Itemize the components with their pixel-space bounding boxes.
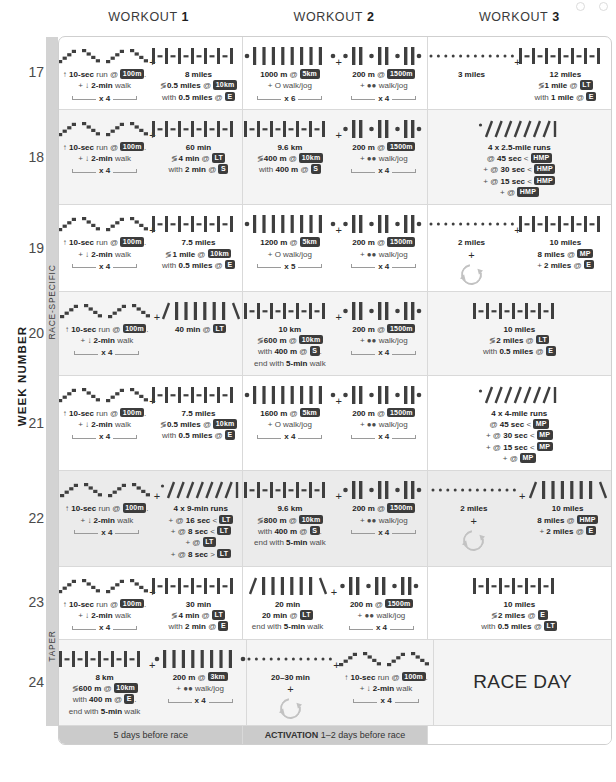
workout-text: with <box>73 695 89 704</box>
workout-segment: ↑ 10-sec run @ 100m.+ ↓ 2-min walkx 4 <box>64 383 145 442</box>
repetition-label: x 4 <box>99 623 110 632</box>
workout-value: 12 miles <box>550 70 582 79</box>
workout-cell-w18-2[interactable]: 9.6 km≶400 m @ 10kmwith 400 m @ S+200 m … <box>243 110 427 204</box>
workout-text: + @ <box>169 516 186 525</box>
segment-group: 10 miles≶2 miles @ Ewith 0.5 miles @ LT <box>433 574 606 633</box>
workout-cell-w20-2[interactable]: 10 km≶600 m @ 10kmwith 400 m @ S.end wit… <box>243 292 427 375</box>
workout-cell-w19-3[interactable]: 2 miles++10 miles8 miles @ MP+ 2 miles @… <box>428 205 611 290</box>
workout-text: with <box>162 93 178 102</box>
workout-segment: 20 min20 min @ LTend with 5-min walk <box>248 574 326 633</box>
workout-detail-line: 10 miles <box>481 599 557 610</box>
workout-text: @ <box>212 261 225 270</box>
workout-text: walk <box>113 611 131 620</box>
pace-badge: 100m <box>123 324 147 334</box>
workout-cell-w17-3[interactable]: 3 miles+12 miles≶1 mile @ LTwith 1 mile … <box>428 37 611 109</box>
workout-segment: 10 miles≶2 miles @ Ewith 0.5 miles @ LT <box>473 574 565 633</box>
workout-detail-line: + ●● walk/jog <box>352 249 415 260</box>
workout-value: 7.5 miles <box>182 409 216 418</box>
workout-text: ≶ <box>257 154 264 163</box>
repetition-count: x 4 <box>351 94 416 103</box>
pace-badge: 10km <box>208 249 232 259</box>
segment-group: 20–30 min++↑ 10-sec run @ 100m.+ ↓ 2-min… <box>252 647 429 719</box>
workout-text: + ●● walk/jog <box>360 154 408 163</box>
workout-cell-w23-2[interactable]: 20 min20 min @ LTend with 5-min walk+200… <box>243 567 427 639</box>
workout-segment: ↑ 10-sec run @ 100m.+ ↓ 2-min walkx 4 <box>344 647 429 706</box>
workout-text: with <box>535 93 551 102</box>
workout-text: + ●● walk/jog <box>360 81 408 90</box>
column-header-workout-3: WORKOUT 3 <box>427 10 612 36</box>
workout-value: 400 m <box>89 695 112 704</box>
workout-segment: ↑ 10-sec run @ 100m.+ ↓ 2-min walkx 4 <box>64 117 145 176</box>
segment-lines: 4 x 9-min runs+ @ 16 sec < LT+ @ 8 sec <… <box>169 503 233 559</box>
workout-detail-line: ↑ 10-sec run @ 100m. <box>65 324 148 335</box>
pace-badge: LT <box>213 324 226 334</box>
workout-detail-line: + @ 8 sec < LT <box>169 526 233 537</box>
workout-value: 30 sec <box>503 431 527 440</box>
workout-detail-line: with 0.5 miles @ E <box>162 260 235 271</box>
segment-lines: ↑ 10-sec run @ 100m.+ ↓ 2-min walk <box>65 503 148 526</box>
pace-badge: 10km <box>299 153 323 163</box>
workout-cell-w22-1[interactable]: ↑ 10-sec run @ 100m.+ ↓ 2-min walkx 4+4 … <box>59 471 243 565</box>
repetition-count: x 4 <box>72 262 137 271</box>
rep-pair-icon <box>342 117 426 141</box>
workout-value: 2 min <box>185 622 206 631</box>
cross-training-cycle-icon <box>457 260 486 289</box>
workout-cell-w24-1[interactable]: 8 km≶600 m @ 10kmwith 400 m @ E.end with… <box>59 640 247 725</box>
workout-cell-w19-2[interactable]: 1200 m @ 5km+ O walk/jogx 5+200 m @ 1500… <box>243 205 427 290</box>
workout-text: ≶ <box>160 81 167 90</box>
workout-detail-line: 4 x 4-mile runs <box>486 408 553 419</box>
repetition-count: x 4 <box>353 696 418 705</box>
workout-cell-w20-3[interactable]: 10 miles≶2 miles @ LTwith 0.5 miles @ E <box>428 292 611 375</box>
workout-text: + ●● walk/jog <box>360 420 408 429</box>
workout-value: 200 m <box>352 238 375 247</box>
workout-text: @ <box>101 684 114 693</box>
workout-value: 2 miles <box>460 504 487 513</box>
segment-lines: 2 miles <box>460 503 487 514</box>
hill-repeat-icon <box>58 117 153 141</box>
segment-lines: ↑ 10-sec run @ 100m.+ ↓ 2-min walk <box>63 142 146 165</box>
pace-badge: 100m <box>120 599 144 609</box>
workout-text: < <box>522 154 531 163</box>
workout-cell-w21-1[interactable]: ↑ 10-sec run @ 100m.+ ↓ 2-min walkx 4+7.… <box>59 376 243 470</box>
workout-detail-line: 20 min @ LT <box>252 610 324 621</box>
interval-dash-icon <box>152 574 244 598</box>
workout-cell-w18-1[interactable]: ↑ 10-sec run @ 100m.+ ↓ 2-min walkx 4+60… <box>59 110 243 204</box>
bracket-left-icon <box>257 435 281 439</box>
workout-text: @ <box>201 81 214 90</box>
workout-cell-w20-1[interactable]: ↑ 10-sec run @ 100m.+ ↓ 2-min walkx 4+40… <box>59 292 243 375</box>
workout-value: 10 miles <box>552 504 584 513</box>
bracket-left-icon <box>72 96 96 100</box>
workout-cell-w24-2[interactable]: 20–30 min++↑ 10-sec run @ 100m.+ ↓ 2-min… <box>247 640 435 725</box>
workout-cell-w23-3[interactable]: 10 miles≶2 miles @ Ewith 0.5 miles @ LT <box>428 567 611 639</box>
workout-text: with <box>162 431 178 440</box>
workout-cell-w21-2[interactable]: 1600 m @ 5km+ O walk/jogx 4+200 m @ 1500… <box>243 376 427 470</box>
workout-cell-w23-1[interactable]: ↑ 10-sec run @ 100m.+ ↓ 2-min walkx 4+30… <box>59 567 243 639</box>
workout-segment: 10 miles≶2 miles @ LTwith 0.5 miles @ E <box>473 299 565 358</box>
dots-icon <box>428 212 516 236</box>
workout-detail-line: with 0.5 miles @ LT <box>481 621 557 632</box>
workout-value: 1000 m <box>260 70 287 79</box>
workout-cell-w22-2[interactable]: 9.6 km≶800 m @ 10kmwith 400 m @ S.end wi… <box>243 471 427 565</box>
workout-detail-line: + ●● walk/jog <box>352 419 415 430</box>
workout-value: 4 x 2.5-mile runs <box>488 143 551 152</box>
workout-cell-w18-3[interactable]: 4 x 2.5-mile runs@ 45 sec < HMP+ @ 30 se… <box>428 110 611 204</box>
workout-cell-w17-1[interactable]: ↑ 10-sec run @ 100m.+ ↓ 2-min walkx 4+8 … <box>59 37 243 109</box>
slash-ramp-icon <box>160 478 242 502</box>
workout-detail-line: + @ HMP <box>483 187 555 198</box>
repetition-count: x 4 <box>74 528 139 537</box>
workout-detail-line: + ●● walk/jog <box>352 515 415 526</box>
workout-cell-w22-3[interactable]: 2 miles++10 miles8 miles @ HMP+ 2 miles … <box>428 471 611 565</box>
workout-cell-w17-2[interactable]: 1000 m @ 5km+ O walk/jogx 6+200 m @ 1500… <box>243 37 427 109</box>
workout-value: 2 miles <box>498 611 525 620</box>
workout-cell-w19-1[interactable]: ↑ 10-sec run @ 100m.+ ↓ 2-min walkx 4+7.… <box>59 205 243 290</box>
workout-segment: 9.6 km≶400 m @ 10kmwith 400 m @ S <box>248 117 331 176</box>
workout-detail-line: + ↓ 2-min walk <box>65 335 148 346</box>
phase-label: TAPER <box>47 631 57 662</box>
bracket-left-icon <box>351 264 375 268</box>
workout-cell-w21-3[interactable]: 4 x 4-mile runs@ 45 sec < MP+ @ 30 sec <… <box>428 376 611 470</box>
plus-separator: + <box>468 250 474 261</box>
workout-detail-line: + ↓ 2-min walk <box>63 153 146 164</box>
workout-detail-line: + ●● walk/jog <box>352 80 415 91</box>
hill-repeat-icon <box>58 383 153 407</box>
workout-text: @ <box>373 600 386 609</box>
